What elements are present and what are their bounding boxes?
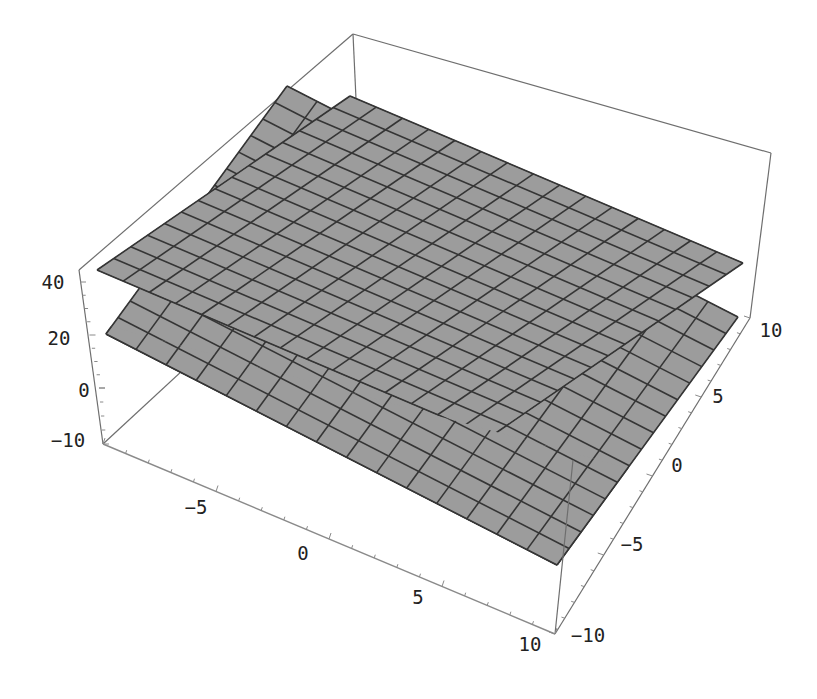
- axis-tick: [306, 526, 307, 529]
- axis-tick: [171, 469, 172, 472]
- axis-tick: [598, 553, 604, 555]
- y-tick-label: 5: [712, 385, 723, 407]
- axis-tick: [659, 459, 662, 460]
- x-tick-label: −10: [51, 429, 85, 451]
- z-tick-label: 40: [42, 271, 65, 293]
- axis-tick: [329, 533, 331, 539]
- axis-tick: [239, 498, 240, 501]
- x-tick-label: 0: [297, 542, 308, 564]
- axis-tick: [647, 474, 653, 476]
- axis-tick: [708, 380, 711, 381]
- axis-tick: [561, 617, 564, 618]
- axis-tick: [581, 586, 584, 587]
- axis-tick: [374, 555, 375, 558]
- x-tick-label: 5: [412, 586, 423, 608]
- axis-tick: [717, 364, 720, 365]
- axis-tick: [465, 593, 466, 596]
- axis-tick: [727, 349, 730, 350]
- axis-tick: [261, 507, 262, 510]
- y-tick-label: −5: [621, 533, 644, 555]
- axis-tick: [669, 443, 672, 444]
- axis-tick: [695, 395, 701, 397]
- axis-tick: [532, 621, 533, 624]
- y-tick-label: −10: [571, 624, 605, 646]
- z-tick-label: 0: [78, 379, 89, 401]
- axis-tick: [352, 545, 353, 548]
- axis-tick: [216, 486, 218, 492]
- x-tick-label: −5: [185, 496, 208, 518]
- axis-tick: [688, 412, 691, 413]
- axis-tick: [744, 316, 750, 318]
- axis-tick: [639, 491, 642, 492]
- axis-tick: [737, 333, 740, 334]
- axis-tick: [620, 522, 623, 523]
- axis-tick: [442, 581, 444, 587]
- axis-tick: [630, 507, 633, 508]
- x-tick-label: 10: [519, 633, 542, 655]
- z-tick-label: 20: [48, 327, 71, 349]
- axis-tick: [510, 612, 511, 615]
- axis-tick: [397, 564, 398, 567]
- axis-tick: [126, 450, 127, 453]
- axis-tick: [284, 517, 285, 520]
- surface-plot-3d: −10 −5 0 5 10 −10 −5 0 5 10 40 20 0: [0, 0, 817, 699]
- axis-tick: [678, 428, 681, 429]
- y-tick-label: 0: [671, 454, 682, 476]
- axis-tick: [591, 570, 594, 571]
- axis-tick: [571, 601, 574, 602]
- axis-tick: [610, 538, 613, 539]
- axis-tick: [148, 460, 149, 463]
- axis-tick: [487, 602, 488, 605]
- axis-tick: [419, 574, 420, 577]
- y-tick-label: 10: [760, 319, 783, 341]
- axis-tick: [193, 479, 194, 482]
